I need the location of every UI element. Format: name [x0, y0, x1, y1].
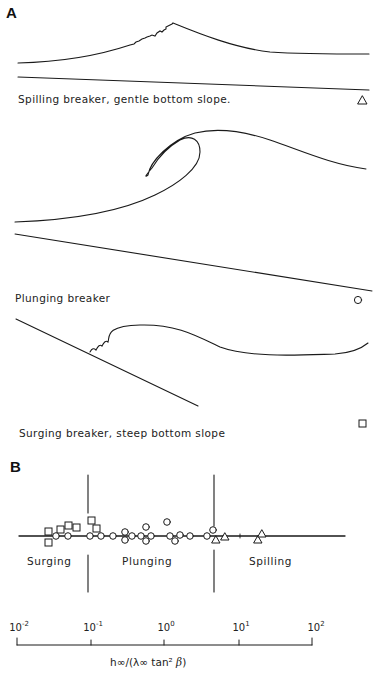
spilling-wave-diagram	[18, 23, 369, 104]
spilling-breaker-caption: Spilling breaker, gentle bottom slope.	[18, 93, 231, 105]
plunging-wave-surface	[15, 130, 366, 222]
plunging-wave-diagram	[15, 130, 372, 303]
plunging-breaker-caption: Plunging breaker	[15, 292, 110, 304]
x-tick-label: 10-2	[9, 620, 29, 633]
surging-wave-diagram	[16, 319, 368, 427]
region-label-spilling: Spilling	[249, 555, 292, 567]
x-tick-label: 102	[307, 620, 324, 633]
steep-bottom-slope	[16, 319, 198, 406]
spilling-wave-surface	[18, 23, 369, 63]
x-axis-title: h∞/(λ∞ tan² β)	[110, 656, 186, 668]
square-marker	[359, 420, 366, 427]
gentle-bottom-slope	[18, 77, 369, 90]
x-tick-label: 100	[157, 620, 174, 633]
moderate-bottom-slope	[15, 234, 372, 291]
x-axis-ticks	[17, 638, 312, 645]
x-tick-label: 101	[232, 620, 249, 633]
x-tick-label: 10-1	[83, 620, 103, 633]
region-label-plunging: Plunging	[122, 555, 172, 567]
region-label-surging: Surging	[27, 555, 72, 567]
surging-wave-surface	[90, 325, 368, 355]
surging-breaker-caption: Surging breaker, steep bottom slope	[19, 427, 225, 439]
triangle-marker	[358, 96, 367, 104]
circle-marker	[354, 296, 361, 303]
surging-points	[45, 517, 100, 546]
